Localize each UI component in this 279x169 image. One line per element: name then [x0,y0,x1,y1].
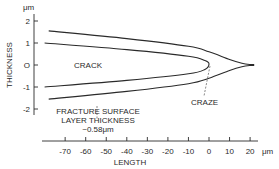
y-tick-label: O [24,61,30,70]
x-tick-label: -20 [162,147,174,156]
crack-profile [45,43,209,87]
y-tick-label: 2 [26,17,31,26]
y-axis-ticks: 21O-1-2 [23,17,38,114]
y-axis-unit: μm [23,3,35,12]
y-tick-label: -1 [23,83,31,92]
y-axis-label: THICKNESS [5,42,14,88]
x-tick-label: 20 [246,147,255,156]
y-tick-label: -2 [23,105,31,114]
craze-outer-lower-boundary [49,65,255,99]
x-tick-label: -70 [59,147,71,156]
fracture-label-line2: LAYER THICKNESS [61,116,135,125]
x-tick-label: 10 [225,147,234,156]
x-axis-unit: μm [262,147,274,156]
x-axis-ticks: -70-60-50-40-30-20-1001020 [59,137,255,156]
fracture-label-line1: FRACTURE SURFACE [56,107,140,116]
x-tick-label: -30 [142,147,154,156]
x-tick-label: -10 [183,147,195,156]
y-tick-label: 1 [26,39,31,48]
x-tick-label: -60 [80,147,92,156]
crack-craze-diagram: 21O-1-2 μm THICKNESS -70-60-50-40-30-20-… [0,0,279,169]
craze-outer-upper-boundary [49,31,255,65]
fracture-label-line3: ~0.58μm [82,125,114,134]
craze-leader-line [204,66,210,96]
x-axis-label: LENGTH [114,158,147,167]
crack-label: CRACK [74,61,103,70]
x-tick-label: 0 [207,147,212,156]
craze-label: CRAZE [191,98,218,107]
x-tick-label: -50 [100,147,112,156]
x-tick-label: -40 [121,147,133,156]
